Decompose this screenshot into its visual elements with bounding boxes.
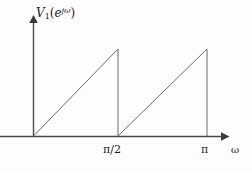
- sawtooth-plot: [0, 0, 252, 172]
- x-tick-label-pi: π: [201, 144, 208, 155]
- figure-container: V1(ejω) π/2 π ω: [0, 0, 252, 172]
- euler-base: e: [54, 6, 61, 20]
- x-tick-label-half-pi: π/2: [103, 144, 121, 155]
- y-axis-label: V1(ejω): [36, 7, 75, 21]
- plot-background: [0, 0, 252, 172]
- euler-exponent: jω: [62, 6, 71, 15]
- x-axis-label-omega: ω: [231, 145, 239, 155]
- paren-close: ): [71, 6, 76, 20]
- signal-name: V: [36, 6, 45, 20]
